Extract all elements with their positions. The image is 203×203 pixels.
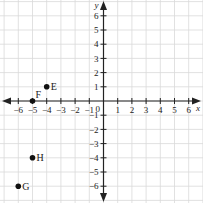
point-label-h: H	[37, 152, 44, 163]
x-tick-label: −6	[14, 105, 24, 115]
point-e	[44, 84, 50, 90]
y-tick-label: 2	[94, 68, 99, 78]
x-axis-left-arrow-icon	[2, 98, 11, 105]
point-f	[30, 98, 36, 104]
y-tick-label: −2	[89, 125, 99, 135]
y-tick-label: 5	[94, 25, 99, 35]
y-tick-label: −1	[89, 110, 99, 120]
coordinate-plane: xy0−6−5−4−3−2−1123456654321−1−2−3−4−5−6 …	[0, 0, 203, 203]
x-tick-label: 6	[186, 105, 191, 115]
x-tick-label: 1	[115, 105, 120, 115]
y-axis-up-arrow-icon	[100, 1, 107, 10]
point-label-e: E	[51, 81, 57, 92]
x-tick-label: −3	[56, 105, 66, 115]
x-tick-label: 3	[144, 105, 149, 115]
point-label-f: F	[36, 89, 42, 100]
y-tick-label: 3	[94, 54, 99, 64]
x-tick-label: 2	[130, 105, 135, 115]
point-g	[15, 183, 21, 189]
y-tick-label: −3	[89, 139, 99, 149]
y-tick-label: −6	[89, 181, 99, 191]
point-h	[30, 155, 36, 161]
y-tick-label: −5	[89, 167, 99, 177]
x-tick-label: −5	[28, 105, 38, 115]
x-axis-label: x	[195, 103, 200, 113]
y-tick-label: 1	[94, 82, 99, 92]
x-tick-label: 4	[158, 105, 163, 115]
point-label-g: G	[22, 181, 29, 192]
y-tick-label: 4	[94, 39, 99, 49]
y-axis-label: y	[94, 0, 99, 10]
x-tick-label: 5	[172, 105, 177, 115]
plotted-points: EFHG	[15, 81, 56, 191]
y-tick-label: −4	[89, 153, 99, 163]
x-tick-label: −2	[70, 105, 80, 115]
y-tick-label: 6	[94, 11, 99, 21]
x-tick-label: −4	[42, 105, 52, 115]
